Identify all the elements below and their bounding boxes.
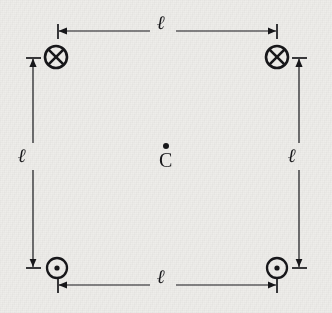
wire-bottom-right [267, 258, 287, 278]
dimension-bottom-label: ℓ [157, 267, 165, 286]
wire-top-left [45, 46, 67, 68]
wire-bottom-left [47, 258, 67, 278]
current-out-of-page-icon-dot [54, 265, 59, 270]
dimension-left-label: ℓ [18, 146, 26, 165]
dimension-bottom [58, 278, 277, 293]
dimension-top [58, 24, 277, 39]
dimension-top-label: ℓ [157, 13, 165, 32]
dimension-left [26, 58, 41, 268]
current-out-of-page-icon-dot [274, 265, 279, 270]
dimension-right-label: ℓ [288, 146, 296, 165]
wire-top-right [266, 46, 288, 68]
physics-diagram-figure: ℓ ℓ ℓ ℓ C [0, 0, 332, 313]
center-point-label: C [159, 150, 172, 170]
